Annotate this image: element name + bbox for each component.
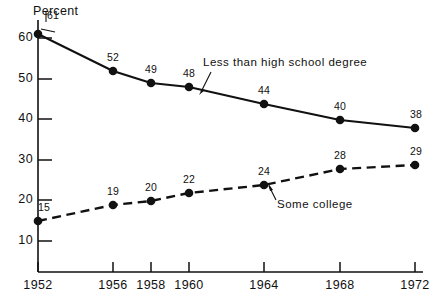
- x-axis-tick-labels: 1952 1956 1958 1960 1964 1968 1972: [23, 278, 429, 292]
- data-point: [147, 197, 156, 206]
- leader-line-less-than-high-school: [201, 72, 211, 92]
- leader-line-61-stem: [41, 29, 55, 32]
- data-point: [34, 30, 43, 39]
- data-point: [109, 201, 118, 210]
- series-line-some-college: [38, 165, 415, 221]
- series-line-less-than-high-school: [38, 34, 415, 128]
- data-point: [336, 165, 345, 174]
- data-point: [185, 83, 194, 92]
- data-point: [411, 124, 420, 133]
- data-point-label: 38: [410, 108, 422, 120]
- x-tick-label: 1972: [400, 278, 429, 292]
- series-point-labels-some-college: 15 19 20 22 24 28 29: [38, 145, 422, 213]
- data-point-label: 52: [107, 51, 119, 63]
- x-tick-label: 1958: [136, 278, 165, 292]
- data-point: [185, 189, 194, 198]
- data-point-label: 28: [334, 149, 346, 161]
- data-point-label: 44: [258, 84, 270, 96]
- x-tick-label: 1968: [325, 278, 354, 292]
- x-tick-label: 1956: [98, 278, 127, 292]
- y-axis-tick-labels: 60 50 40 30 20 10: [18, 30, 33, 247]
- data-point-label: 40: [334, 100, 346, 112]
- series-annotation-less-than-high-school: Less than high school degree: [203, 56, 367, 68]
- series-annotation-some-college: Some college: [277, 198, 353, 210]
- chart-figure: 60 50 40 30 20 10 Percent 1952 1956 1958…: [0, 0, 435, 304]
- y-tick-label: 60: [18, 30, 33, 44]
- x-tick-label: 1952: [23, 278, 52, 292]
- x-tick-label: 1960: [174, 278, 203, 292]
- data-point-label: 29: [410, 145, 422, 157]
- data-point: [260, 181, 269, 190]
- chart-canvas: 60 50 40 30 20 10 Percent 1952 1956 1958…: [0, 0, 435, 304]
- y-tick-label: 30: [18, 152, 33, 166]
- data-point: [260, 100, 269, 109]
- data-point: [147, 79, 156, 88]
- y-tick-label: 50: [18, 71, 33, 85]
- data-point: [109, 67, 118, 76]
- x-axis-ticks: [38, 262, 415, 272]
- series-points-less-than-high-school: [34, 30, 420, 133]
- data-point-label: 20: [145, 181, 157, 193]
- data-point-label: 24: [258, 165, 270, 177]
- data-point: [34, 217, 43, 226]
- data-point-label: 48: [183, 67, 195, 79]
- data-point: [336, 116, 345, 125]
- data-point-label: 15: [38, 201, 50, 213]
- data-point-label: 19: [107, 185, 119, 197]
- data-point-label: 61: [47, 9, 59, 21]
- y-tick-label: 40: [18, 111, 33, 125]
- y-tick-label: 10: [18, 233, 33, 247]
- x-tick-label: 1964: [249, 278, 278, 292]
- data-point-label: 22: [183, 173, 195, 185]
- series-points-some-college: [34, 161, 420, 226]
- data-point-label: 49: [145, 63, 157, 75]
- data-point: [411, 161, 420, 170]
- y-tick-label: 20: [18, 192, 33, 206]
